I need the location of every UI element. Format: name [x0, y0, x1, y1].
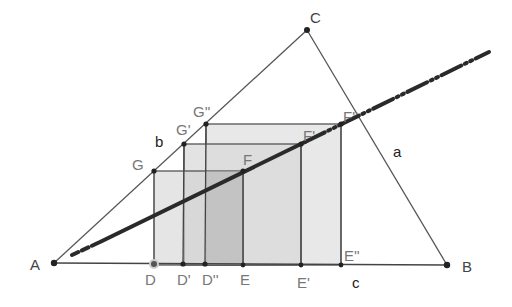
label-f: F [243, 151, 252, 168]
label-g: G [132, 156, 144, 173]
point-g[interactable] [151, 168, 156, 173]
point-e[interactable] [241, 263, 246, 268]
locus-line-dashed-end [305, 52, 489, 142]
point-e2[interactable] [339, 263, 344, 268]
label-side-c: c [352, 274, 360, 291]
point-c[interactable] [304, 27, 310, 33]
label-b: B [462, 258, 472, 275]
label-g2: G'' [193, 103, 211, 120]
label-d1: D' [177, 271, 191, 288]
label-c: C [310, 9, 321, 26]
point-g1[interactable] [181, 141, 186, 146]
label-f2: F'' [343, 108, 358, 125]
label-e: E [240, 271, 250, 288]
label-d2: D'' [202, 271, 219, 288]
point-a[interactable] [51, 260, 57, 266]
label-d: D [145, 271, 156, 288]
label-e1: E' [297, 274, 310, 291]
point-d2[interactable] [202, 261, 207, 266]
point-d[interactable] [151, 261, 157, 267]
label-e2: E'' [344, 247, 360, 264]
square-overlap-region [206, 171, 243, 265]
label-side-a: a [393, 143, 402, 160]
point-e1[interactable] [299, 263, 304, 268]
label-a: A [30, 256, 40, 273]
locus-line-dashed-start [72, 242, 100, 255]
point-g2[interactable] [203, 121, 208, 126]
point-b[interactable] [444, 262, 450, 268]
point-f[interactable] [240, 168, 245, 173]
geometry-diagram: A B C a b c G F D E G' F' D' E' G'' F'' … [0, 0, 512, 307]
point-d1[interactable] [180, 261, 185, 266]
label-f1: F' [303, 127, 315, 144]
label-g1: G' [176, 121, 191, 138]
label-side-b: b [155, 133, 163, 150]
